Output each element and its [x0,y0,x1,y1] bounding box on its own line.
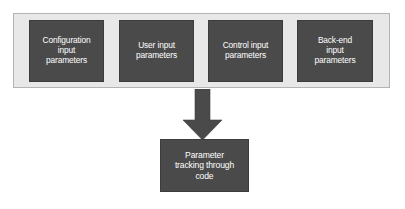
flow-diagram: Configuration input parameters User inpu… [0,0,405,209]
downward-arrow-icon [183,89,222,140]
node-label: Parameter tracking through code [172,150,237,180]
node-user-input-parameters[interactable]: User input parameters [119,20,194,82]
node-configuration-input-parameters[interactable]: Configuration input parameters [29,20,104,82]
node-label: Configuration input parameters [40,36,94,66]
node-label: Back-end input parameters [312,36,359,66]
node-back-end-input-parameters[interactable]: Back-end input parameters [297,20,373,82]
node-control-input-parameters[interactable]: Control input parameters [208,20,283,82]
input-parameters-group-container: Configuration input parameters User inpu… [13,13,390,88]
node-parameter-tracking-through-code[interactable]: Parameter tracking through code [160,139,249,192]
node-label: User input parameters [133,41,180,61]
node-label: Control input parameters [220,41,272,61]
